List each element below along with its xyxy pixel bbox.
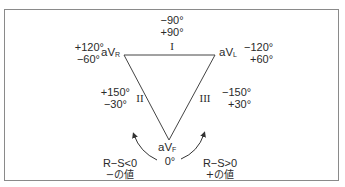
aVL-angle-1: −120° — [244, 41, 278, 53]
side-II-angle-2: −30° — [96, 98, 127, 110]
lead-aVF-label: aVF — [158, 141, 176, 156]
right-meaning-label: +の値 — [200, 169, 240, 181]
left-meaning-label: −の値 — [100, 169, 140, 181]
right-condition-label: R−S>0 — [200, 157, 240, 169]
aVL-angle-2: +60° — [250, 53, 280, 65]
lead-aVR-label: aVR — [101, 46, 120, 61]
aVR-angle-2: −60° — [70, 53, 100, 65]
left-condition-label: R−S<0 — [100, 157, 140, 169]
aVF-angle: 0° — [160, 155, 180, 167]
lead-aVL-label: aVL — [219, 46, 237, 61]
side-III-angle-1: −150° — [222, 86, 258, 98]
side-I-angle-1: −90° — [152, 14, 192, 26]
side-I-label: I — [160, 40, 184, 52]
right-curved-arrow-icon — [181, 134, 204, 159]
side-II-label: II — [133, 92, 147, 104]
side-III-angle-2: +30° — [228, 98, 258, 110]
aVR-angle-1: +120° — [70, 41, 104, 53]
side-II-angle-1: +150° — [96, 86, 130, 98]
side-III-label: III — [197, 92, 213, 104]
side-I-angle-2: +90° — [152, 26, 192, 38]
